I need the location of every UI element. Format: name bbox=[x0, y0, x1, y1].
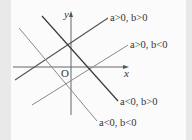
y-axis-arrow-icon bbox=[69, 11, 73, 17]
label-a-pos-b-neg: a>0, b<0 bbox=[130, 39, 168, 50]
label-a-pos-b-pos: a>0, b>0 bbox=[110, 12, 148, 23]
coordinate-axes bbox=[13, 11, 129, 115]
x-axis-label: x bbox=[123, 67, 129, 79]
y-axis-label: y bbox=[63, 8, 69, 20]
linear-graphs-diagram: y x O a>0, b>0 a>0, b<0 a<0, b>0 a<0, b<… bbox=[0, 0, 192, 140]
origin-label: O bbox=[61, 67, 69, 79]
label-a-neg-b-pos: a<0, b>0 bbox=[120, 96, 158, 107]
label-a-neg-b-neg: a<0, b<0 bbox=[99, 117, 137, 128]
line-a-neg-b-neg bbox=[19, 28, 97, 121]
